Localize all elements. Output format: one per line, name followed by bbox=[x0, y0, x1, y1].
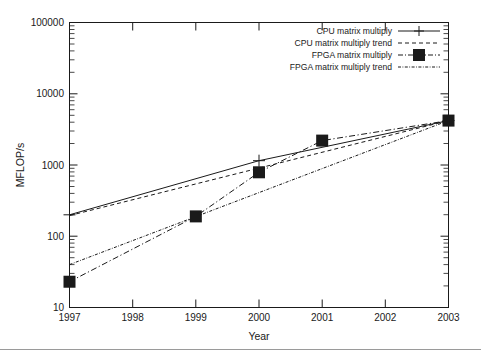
data-point-marker bbox=[64, 276, 76, 288]
footer-divider bbox=[0, 349, 481, 350]
x-tick-label-2001: 2001 bbox=[311, 312, 334, 323]
chart-figure: 100000 10000 1000 100 10 MFLOP/s 1997 19… bbox=[0, 0, 481, 362]
x-tick-label-2003: 2003 bbox=[437, 312, 460, 323]
x-tick-label-1997: 1997 bbox=[58, 312, 81, 323]
y-tick-label-100000: 100000 bbox=[31, 17, 65, 28]
x-tick-label-1998: 1998 bbox=[122, 312, 145, 323]
x-tick-label-2002: 2002 bbox=[374, 312, 397, 323]
x-tick-label-1999: 1999 bbox=[185, 312, 208, 323]
y-axis-title: MFLOP/s bbox=[14, 143, 26, 187]
y-tick-label-1000: 1000 bbox=[42, 160, 65, 171]
data-point-marker bbox=[443, 115, 455, 127]
x-tick-label-2000: 2000 bbox=[248, 312, 271, 323]
data-point-marker bbox=[190, 210, 202, 222]
chart-svg: 100000 10000 1000 100 10 MFLOP/s 1997 19… bbox=[0, 0, 481, 362]
legend-label-cpu-matrix-multiply-trend: CPU matrix multiply trend bbox=[295, 38, 393, 48]
x-axis-title: Year bbox=[248, 330, 270, 342]
legend-label-fpga-matrix-multiply-trend: FPGA matrix multiply trend bbox=[290, 62, 392, 72]
y-tick-label-10000: 10000 bbox=[36, 88, 64, 99]
data-point-marker bbox=[253, 166, 265, 178]
y-tick-label-100: 100 bbox=[47, 231, 64, 242]
data-point-marker bbox=[316, 135, 328, 147]
legend-label-fpga-matrix-multiply: FPGA matrix multiply bbox=[312, 50, 393, 60]
legend-label-cpu-matrix-multiply: CPU matrix multiply bbox=[317, 26, 393, 36]
